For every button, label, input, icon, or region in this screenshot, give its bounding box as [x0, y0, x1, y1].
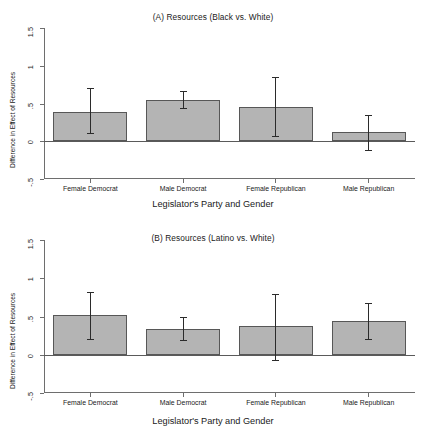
error-cap-panel-b-3-low	[365, 339, 372, 340]
panel-b-x-tick-label-3: Male Republican	[343, 399, 394, 406]
panel-b-y-axis	[44, 240, 45, 393]
panel-a-y-tick	[40, 66, 44, 67]
panel-a-plot-area: 1.51.50-.5Female DemocratMale DemocratFe…	[44, 28, 415, 179]
panel-b-y-axis-title: Difference in Effect of Resources	[9, 265, 16, 389]
error-cap-panel-a-1-high	[180, 91, 187, 92]
panel-a-y-tick-label: 1.5	[27, 27, 34, 37]
panel-a-x-tick-2	[275, 179, 276, 183]
panel-a-x-tick-1	[183, 179, 184, 183]
error-cap-panel-b-1-high	[180, 317, 187, 318]
error-cap-panel-b-2-low	[272, 360, 279, 361]
error-bar-panel-b-0	[90, 292, 91, 339]
panel-b-y-tick-label: -.5	[27, 392, 34, 401]
error-cap-panel-b-1-low	[180, 340, 187, 341]
panel-a-y-tick	[40, 104, 44, 105]
panel-b-y-tick-label: 0	[27, 354, 34, 358]
panel-a-y-axis-title: Difference in Effect of Resources	[9, 44, 16, 168]
panel-b-y-tick	[40, 393, 44, 394]
error-bar-panel-b-2	[275, 294, 276, 361]
panel-a: (A) Resources (Black vs. White) Differen…	[0, 0, 426, 220]
error-cap-panel-a-2-low	[272, 136, 279, 137]
error-bar-panel-b-1	[183, 317, 184, 341]
panel-b-y-tick	[40, 278, 44, 279]
panel-b-x-tick-3	[368, 393, 369, 397]
error-cap-panel-a-3-low	[365, 150, 372, 151]
error-cap-panel-a-2-high	[272, 77, 279, 78]
panel-b-y-tick	[40, 240, 44, 241]
error-cap-panel-b-3-high	[365, 303, 372, 304]
error-cap-panel-a-0-low	[87, 133, 94, 134]
panel-a-x-tick-3	[368, 179, 369, 183]
error-bar-panel-a-0	[90, 88, 91, 133]
error-cap-panel-b-2-high	[272, 294, 279, 295]
panel-a-x-tick-label-1: Male Democrat	[160, 185, 207, 192]
panel-a-x-tick-0	[90, 179, 91, 183]
panel-b-x-tick-2	[275, 393, 276, 397]
error-bar-panel-b-3	[368, 303, 369, 338]
panel-b-x-tick-1	[183, 393, 184, 397]
panel-a-x-axis	[44, 178, 415, 179]
panel-a-title: (A) Resources (Black vs. White)	[0, 12, 426, 22]
error-cap-panel-a-3-high	[365, 115, 372, 116]
error-cap-panel-a-1-low	[180, 108, 187, 109]
panel-b-x-tick-label-0: Female Democrat	[63, 399, 118, 406]
panel-a-zero-line	[44, 141, 415, 142]
panel-b-x-tick-label-2: Female Republican	[246, 399, 305, 406]
error-cap-panel-b-0-high	[87, 292, 94, 293]
panel-a-y-tick-label: 1	[27, 65, 34, 69]
error-bar-panel-a-1	[183, 91, 184, 108]
panel-a-x-tick-label-0: Female Democrat	[63, 185, 118, 192]
panel-b: (B) Resources (Latino vs. White) Differe…	[0, 219, 426, 439]
error-bar-panel-a-2	[275, 77, 276, 136]
panel-b-plot-area: 1.51.50-.5Female DemocratMale DemocratFe…	[44, 240, 415, 393]
figure-container: (A) Resources (Black vs. White) Differen…	[0, 0, 426, 441]
panel-a-x-tick-label-2: Female Republican	[246, 185, 305, 192]
panel-b-y-tick-label: 1.5	[27, 239, 34, 249]
panel-b-x-axis-title: Legislator's Party and Gender	[0, 416, 426, 426]
panel-a-y-tick-label: .5	[27, 103, 34, 109]
panel-a-y-tick	[40, 28, 44, 29]
panel-a-y-tick-label: -.5	[27, 178, 34, 187]
panel-a-x-axis-title: Legislator's Party and Gender	[0, 199, 426, 209]
panel-a-y-axis	[44, 28, 45, 179]
error-cap-panel-b-0-low	[87, 339, 94, 340]
panel-a-x-tick-label-3: Male Republican	[343, 185, 394, 192]
panel-b-x-tick-label-1: Male Democrat	[160, 399, 207, 406]
panel-b-y-tick-label: 1	[27, 277, 34, 281]
panel-b-y-tick-label: .5	[27, 316, 34, 322]
error-bar-panel-a-3	[368, 115, 369, 150]
panel-b-x-tick-0	[90, 393, 91, 397]
panel-b-y-tick	[40, 317, 44, 318]
panel-b-x-axis	[44, 392, 415, 393]
panel-a-y-tick-label: 0	[27, 140, 34, 144]
panel-b-zero-line	[44, 355, 415, 356]
panel-a-y-tick	[40, 179, 44, 180]
error-cap-panel-a-0-high	[87, 88, 94, 89]
